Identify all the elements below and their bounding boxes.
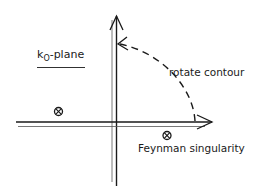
k0-plane-contour-diagram: kO-plane rotate contour Feynman singular… [0,0,261,194]
plane-label-suffix: -plane [50,48,85,61]
rotate-contour-label: rotate contour [169,66,245,78]
rotation-arc-arrowhead-icon [118,37,128,50]
svg-text:kO-plane: kO-plane [37,48,84,63]
horizontal-axis [16,115,212,129]
singularity-upper-left-circled-x-icon [55,108,63,116]
plane-label: kO-plane [37,48,85,68]
singularity-lower-right-circled-x-icon [163,132,171,140]
feynman-singularity-label: Feynman singularity [138,142,245,154]
rotation-arc [118,37,195,121]
